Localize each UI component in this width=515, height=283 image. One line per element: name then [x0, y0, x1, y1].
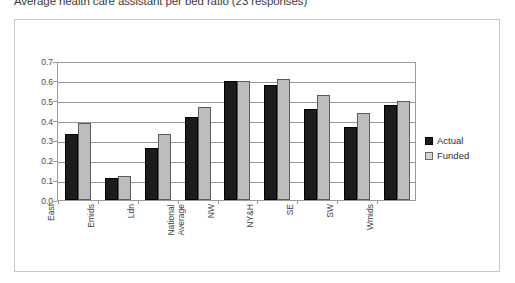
legend-item: Actual	[425, 133, 493, 148]
y-axis-labels: 0.70.60.50.40.30.20.10.0	[29, 62, 53, 201]
bar-group	[58, 63, 98, 200]
y-axis-tick-label: 0.1	[41, 176, 53, 186]
bar-actual	[145, 148, 158, 200]
x-axis-labels: EastEmidsLdnNational AverageNWNY&HSESWWm…	[57, 204, 416, 266]
bar-funded	[158, 134, 171, 200]
chart-legend: ActualFunded	[425, 133, 493, 163]
bar-funded	[397, 101, 410, 200]
bar-group	[297, 63, 337, 200]
bar-funded	[198, 107, 211, 200]
bar-funded	[357, 113, 370, 200]
bar-actual	[304, 109, 317, 200]
chart-frame: 0.70.60.50.40.30.20.10.0 EastEmidsLdnNat…	[14, 19, 500, 272]
square-swatch-icon	[425, 152, 433, 160]
plot-area	[57, 62, 416, 201]
bar-group	[138, 63, 178, 200]
bar-actual	[384, 105, 397, 200]
bar-group	[98, 63, 138, 200]
x-axis-tick-label: Wmids	[365, 204, 427, 230]
bar-group	[337, 63, 377, 200]
y-axis-tick-label: 0.7	[41, 57, 53, 67]
bar-group	[257, 63, 297, 200]
y-axis-tick-label: 0.4	[41, 117, 53, 127]
bar-group	[377, 63, 417, 200]
y-axis-tick-label: 0.5	[41, 97, 53, 107]
legend-item-label: Actual	[437, 135, 463, 146]
bar-actual	[224, 81, 237, 200]
chart-screenshot: Average health care assistant per bed ra…	[0, 0, 515, 283]
bar-funded	[118, 176, 131, 200]
bar-actual	[185, 117, 198, 200]
bar-group	[218, 63, 258, 200]
y-axis-tick-label: 0.6	[41, 77, 53, 87]
bar-actual	[344, 127, 357, 200]
bar-actual	[264, 85, 277, 200]
bar-actual	[105, 178, 118, 200]
bar-funded	[237, 81, 250, 200]
y-axis-tick-label: 0.3	[41, 136, 53, 146]
legend-item-label: Funded	[437, 150, 469, 161]
bar-funded	[78, 123, 91, 200]
legend-item: Funded	[425, 148, 493, 163]
bar-funded	[317, 95, 330, 200]
square-swatch-icon	[425, 137, 433, 145]
y-axis-tick-label: 0.2	[41, 156, 53, 166]
bar-funded	[277, 79, 290, 200]
bar-actual	[65, 134, 78, 200]
chart-caption: Average health care assistant per bed ra…	[14, 0, 307, 7]
bar-group	[178, 63, 218, 200]
